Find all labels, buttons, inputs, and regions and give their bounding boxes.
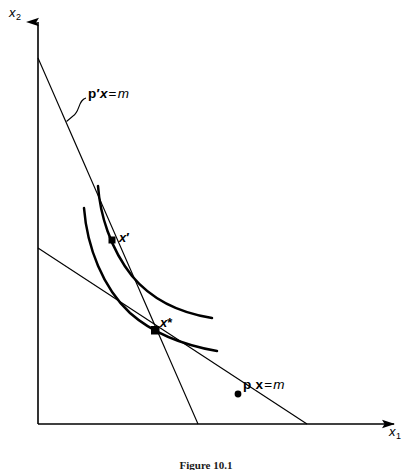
vector-x-symbol: x bbox=[100, 86, 108, 101]
indifference-curve-lower bbox=[84, 208, 217, 351]
bundle-x-star-label: x* bbox=[160, 316, 172, 329]
bundle-x-prime-label: x′ bbox=[119, 231, 129, 244]
axis-group bbox=[38, 22, 394, 424]
scalar-m-symbol-base: m bbox=[273, 377, 284, 392]
bundle-x-prime-mark: ′ bbox=[126, 230, 129, 245]
equals-sign-base: = bbox=[263, 377, 273, 392]
vector-p-symbol: p bbox=[243, 377, 251, 392]
leader-line-budget-prime bbox=[67, 98, 87, 122]
indifference-curves-group bbox=[84, 186, 217, 351]
scalar-m-symbol: m bbox=[118, 86, 129, 101]
y-axis-label-base: x bbox=[9, 5, 16, 20]
vector-x-symbol-base: x bbox=[255, 377, 263, 392]
x-axis-label: x1 bbox=[389, 425, 401, 438]
x-axis-label-base: x bbox=[389, 424, 396, 439]
point-budget-base-marker bbox=[235, 391, 242, 398]
figure-container: x2 x1 p′x=m p x=m x′ x* Figure 10.1 bbox=[0, 0, 412, 470]
x-axis-label-subscript: 1 bbox=[396, 431, 401, 441]
budget-line-p-prime bbox=[38, 58, 198, 424]
budget-line-p-label: p x=m bbox=[243, 378, 285, 392]
budget-line-p bbox=[38, 248, 307, 424]
bundle-points-group bbox=[109, 237, 242, 398]
figure-caption: Figure 10.1 bbox=[0, 459, 412, 470]
point-x-prime bbox=[109, 237, 116, 244]
budget-lines-group bbox=[38, 58, 307, 424]
equals-sign: = bbox=[108, 86, 118, 101]
diagram-canvas bbox=[0, 0, 412, 470]
point-x-star bbox=[151, 326, 160, 335]
y-axis-label: x2 bbox=[9, 6, 21, 19]
bundle-x-star-mark: * bbox=[167, 315, 172, 330]
budget-line-p-prime-label: p′x=m bbox=[88, 87, 129, 101]
y-axis-label-subscript: 2 bbox=[16, 12, 21, 22]
